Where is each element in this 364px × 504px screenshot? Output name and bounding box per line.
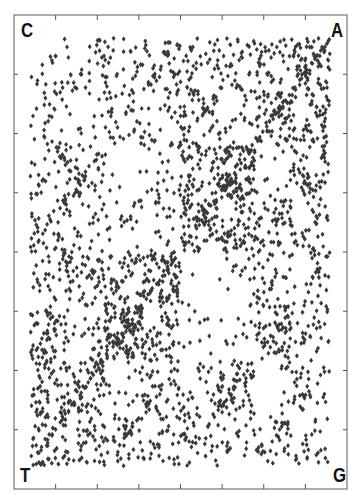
corner-label-g: G xyxy=(333,464,346,485)
corner-label-c: C xyxy=(21,19,33,40)
scatter-points xyxy=(28,36,331,469)
corner-label-a: A xyxy=(331,19,343,40)
corner-label-t: T xyxy=(20,464,30,485)
diamond-markers xyxy=(28,36,331,469)
cgr-scatter-plot xyxy=(0,0,364,504)
